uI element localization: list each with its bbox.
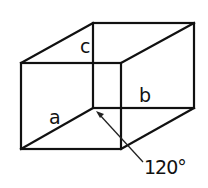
- arrowhead-icon: [96, 111, 104, 118]
- box-diagram: c a b 120°: [0, 0, 208, 188]
- edge-top-right: [121, 23, 194, 63]
- label-a: a: [49, 106, 61, 128]
- label-c: c: [80, 35, 90, 57]
- front-face: [21, 63, 121, 149]
- label-angle: 120°: [144, 156, 186, 178]
- label-b: b: [139, 84, 151, 106]
- edge-bottom-right: [121, 108, 194, 149]
